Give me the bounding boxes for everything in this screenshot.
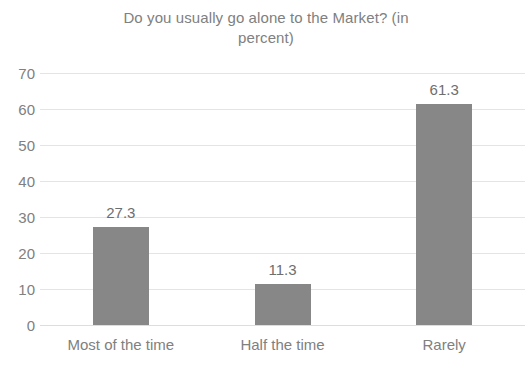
x-category-label: Half the time [198,336,368,354]
y-tick-label: 10 [1,282,35,297]
x-category-label: Rarely [359,336,529,354]
gridline [40,73,525,74]
y-tick-label: 20 [1,246,35,261]
chart-title-line-2: percent) [70,28,462,48]
y-tick-label: 40 [1,174,35,189]
y-tick-label: 30 [1,210,35,225]
y-tick-label: 70 [1,66,35,81]
bar[interactable] [416,104,472,325]
y-tick-label: 50 [1,138,35,153]
plot-area [40,73,525,325]
chart-title-line-1: Do you usually go alone to the Market? (… [70,8,462,28]
y-tick-label: 60 [1,102,35,117]
bar-value-label: 61.3 [399,82,489,97]
bar[interactable] [255,284,311,325]
y-tick-label: 0 [1,318,35,333]
x-category-label: Most of the time [36,336,206,354]
bar-value-label: 27.3 [76,205,166,220]
bar[interactable] [93,227,149,325]
y-axis: 706050403020100 [0,73,35,325]
gridline [40,325,525,326]
chart-title: Do you usually go alone to the Market? (… [70,8,462,48]
bar-chart: Do you usually go alone to the Market? (… [0,0,531,367]
bar-value-label: 11.3 [238,262,328,277]
